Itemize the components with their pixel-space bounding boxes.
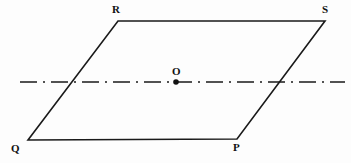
vertex-label-q: Q (11, 143, 20, 154)
vertex-label-s: S (322, 4, 328, 15)
center-point-o-dot (173, 79, 179, 85)
figure-canvas (0, 0, 351, 163)
center-point-label-o: O (172, 66, 181, 77)
vertex-label-r: R (112, 4, 120, 15)
vertex-label-p: P (233, 142, 240, 153)
geometry-figure: R S Q P O (0, 0, 351, 163)
